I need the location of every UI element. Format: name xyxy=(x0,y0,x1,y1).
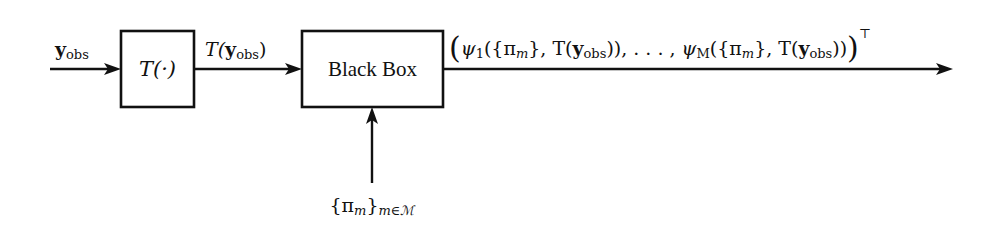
transform-block-label: T(·) xyxy=(139,57,176,81)
prior-label: {πm}m∈ℳ xyxy=(330,194,417,218)
transform-output-label: T(yobs) xyxy=(205,38,266,62)
transform-block: T(·) xyxy=(121,31,194,107)
prior-arrow xyxy=(366,107,378,183)
black-box-label: Black Box xyxy=(328,57,418,81)
input-arrow xyxy=(50,63,121,75)
black-box-block: Black Box xyxy=(302,31,443,107)
black-box-diagram: yobs T(·) T(yobs) Black Box {πm}m∈ℳ (ψ1(… xyxy=(0,0,997,229)
input-label: yobs xyxy=(54,38,89,62)
output-label: (ψ1({πm}, T(yobs)), . . . ,ψM({πm}, T(yo… xyxy=(449,26,871,65)
transform-to-blackbox-arrow xyxy=(194,63,302,75)
output-arrow xyxy=(443,63,953,75)
